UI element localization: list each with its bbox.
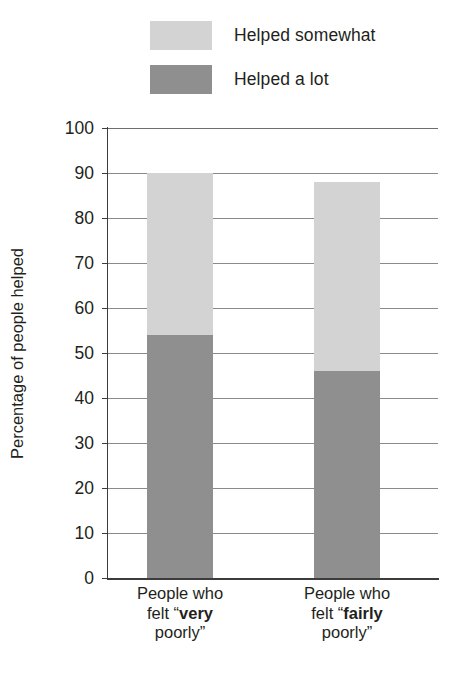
legend-label-helped-somewhat: Helped somewhat — [234, 25, 376, 46]
y-axis-tick-label: 0 — [84, 568, 94, 589]
stacked-bar — [314, 182, 380, 578]
bar-segment-helped-somewhat — [314, 182, 380, 371]
y-axis-tick — [102, 398, 108, 399]
chart-legend: Helped somewhat Helped a lot — [150, 20, 450, 108]
x-axis-line — [107, 578, 439, 580]
y-axis-tick-label: 70 — [75, 253, 94, 274]
y-axis-tick — [102, 488, 108, 489]
y-axis-tick — [102, 263, 108, 264]
legend-swatch-helped-somewhat — [150, 21, 212, 50]
bar-segment-helped-a-lot — [314, 371, 380, 578]
gridline — [108, 128, 438, 129]
category-label-line-1: People who — [262, 584, 432, 604]
y-axis-tick-label: 50 — [75, 343, 94, 364]
y-axis-tick-label: 100 — [65, 118, 94, 139]
y-axis-tick — [102, 353, 108, 354]
category-label-line-3: poorly” — [95, 623, 265, 643]
y-axis-tick — [102, 218, 108, 219]
y-axis-tick — [102, 308, 108, 309]
y-axis-tick-labels: 1009080706050403020100 — [0, 0, 104, 674]
y-axis-tick-label: 40 — [75, 388, 94, 409]
legend-swatch-helped-a-lot — [150, 65, 212, 94]
y-axis-tick-label: 30 — [75, 433, 94, 454]
y-axis-tick-label: 60 — [75, 298, 94, 319]
y-axis-tick-label: 80 — [75, 208, 94, 229]
stacked-bar — [147, 173, 213, 578]
bar-segment-helped-somewhat — [147, 173, 213, 335]
y-axis-tick — [102, 173, 108, 174]
y-axis-tick — [102, 128, 108, 129]
legend-item-helped-somewhat: Helped somewhat — [150, 20, 450, 50]
bar-segment-helped-a-lot — [147, 335, 213, 578]
category-label-line-2: felt “very — [95, 604, 265, 624]
legend-item-helped-a-lot: Helped a lot — [150, 64, 450, 94]
y-axis-tick — [102, 443, 108, 444]
x-axis-category-label: People whofelt “verypoorly” — [95, 584, 265, 643]
y-axis-tick-label: 10 — [75, 523, 94, 544]
y-axis-tick-label: 20 — [75, 478, 94, 499]
plot-area — [108, 128, 438, 578]
category-label-line-1: People who — [95, 584, 265, 604]
category-label-emphasis: fairly — [343, 604, 382, 622]
legend-label-helped-a-lot: Helped a lot — [234, 69, 329, 90]
y-axis-tick — [102, 533, 108, 534]
category-label-line-3: poorly” — [262, 623, 432, 643]
category-label-emphasis: very — [179, 604, 213, 622]
x-axis-category-label: People whofelt “fairlypoorly” — [262, 584, 432, 643]
y-axis-tick-label: 90 — [75, 163, 94, 184]
category-label-line-2: felt “fairly — [262, 604, 432, 624]
